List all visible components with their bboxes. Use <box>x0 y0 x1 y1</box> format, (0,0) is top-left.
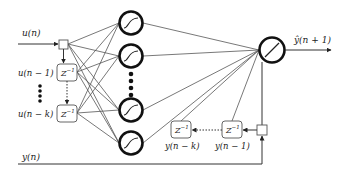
output-label: ŷ(n + 1) <box>293 35 331 45</box>
narx-network-diagram: u(n) Z−1 u(n − 1) Z−1 u(n − k) <box>0 0 348 177</box>
feedback-delayed-label-1: y(n − 1) <box>214 141 250 151</box>
hidden-neuron-4 <box>120 132 143 155</box>
input-label: u(n) <box>22 28 41 38</box>
input-delayed-label-1: u(n − 1) <box>18 68 54 78</box>
input-section: u(n) Z−1 u(n − 1) Z−1 u(n − k) <box>18 28 77 122</box>
input-delayed-label-k: u(n − k) <box>18 109 53 119</box>
feedback-branch-node <box>257 125 267 135</box>
output-neuron <box>260 38 285 63</box>
hidden-neuron-2 <box>120 45 143 68</box>
hidden-neuron-3 <box>120 99 143 122</box>
input-branch-node <box>59 40 68 49</box>
target-label: y(n) <box>21 152 40 162</box>
hidden-layer <box>120 12 143 155</box>
ellipsis-dots-icon <box>38 84 42 103</box>
feedback-to-output-connections <box>181 50 259 121</box>
input-to-hidden-connections <box>68 23 119 143</box>
hidden-neuron-1 <box>120 12 143 35</box>
feedback-delayed-label-k: y(n − k) <box>164 141 200 151</box>
hidden-ellipsis-icon <box>129 72 134 98</box>
